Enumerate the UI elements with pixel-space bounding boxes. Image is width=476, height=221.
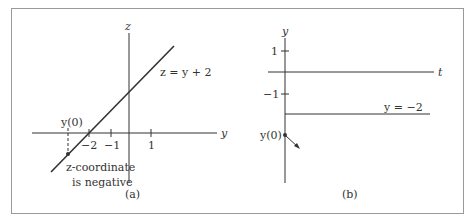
caption-a: (a) bbox=[125, 188, 140, 201]
caption-b: (b) bbox=[342, 188, 358, 201]
point-label: y(0) bbox=[60, 116, 83, 129]
panel-a: z y z = y + 2 −2 −1 1 y(0) z-coordinate … bbox=[32, 20, 228, 201]
tick-label-1: 1 bbox=[271, 45, 278, 58]
axis-z-label: z bbox=[124, 20, 131, 33]
axis-t-label: t bbox=[438, 66, 443, 79]
tick-label-minus1: −1 bbox=[104, 139, 120, 152]
axis-y-label: y bbox=[220, 127, 228, 140]
line-label: y = −2 bbox=[383, 101, 423, 114]
point-y0 bbox=[66, 152, 70, 156]
line-label: z = y + 2 bbox=[160, 66, 211, 79]
tick-label-1: 1 bbox=[148, 139, 155, 152]
axis-y-label: y bbox=[281, 25, 289, 38]
note-line-2: is negative bbox=[72, 176, 133, 189]
panel-b: y t 1 −1 y = −2 y(0) (b) bbox=[259, 25, 443, 201]
note-line-1: z-coordinate bbox=[66, 161, 135, 174]
tick-label-minus1: −1 bbox=[263, 88, 279, 101]
figure: z y z = y + 2 −2 −1 1 y(0) z-coordinate … bbox=[0, 0, 476, 221]
tick-label-minus2: −2 bbox=[81, 139, 97, 152]
point-label: y(0) bbox=[259, 129, 282, 142]
